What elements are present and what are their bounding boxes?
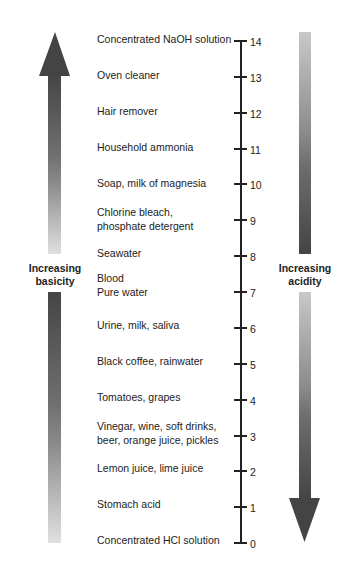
tick-11 xyxy=(234,148,247,150)
label-line: Increasing xyxy=(270,262,340,275)
tick-1 xyxy=(234,506,247,508)
tick-5 xyxy=(234,363,247,365)
item-oven-cleaner: Oven cleaner xyxy=(97,69,159,83)
tick-8 xyxy=(234,255,247,257)
item-household-ammonia: Household ammonia xyxy=(97,141,193,155)
tick-label-11: 11 xyxy=(250,144,261,156)
tick-label-6: 6 xyxy=(250,323,256,335)
label-line: basicity xyxy=(20,275,90,288)
tick-13 xyxy=(234,76,247,78)
tick-label-1: 1 xyxy=(250,502,256,514)
item-pure-water: Pure water xyxy=(97,286,148,300)
tick-label-3: 3 xyxy=(250,431,256,443)
tick-label-4: 4 xyxy=(250,395,256,407)
tick-6 xyxy=(234,327,247,329)
item-vinegar-line2: beer, orange juice, pickles xyxy=(97,434,218,448)
tick-2 xyxy=(234,470,247,472)
tick-label-0: 0 xyxy=(250,538,256,550)
increasing-basicity-label: Increasing basicity xyxy=(20,262,90,288)
tick-label-8: 8 xyxy=(250,251,256,263)
tick-0 xyxy=(234,542,247,544)
item-seawater: Seawater xyxy=(97,247,141,261)
increasing-acidity-label: Increasing acidity xyxy=(270,262,340,288)
tick-14 xyxy=(234,40,247,42)
tick-3 xyxy=(234,435,247,437)
item-chlorine-bleach-line2: phosphate detergent xyxy=(97,220,193,234)
tick-label-14: 14 xyxy=(250,36,262,48)
tick-label-2: 2 xyxy=(250,466,256,478)
item-lemon-juice: Lemon juice, lime juice xyxy=(97,462,203,476)
item-black-coffee: Black coffee, rainwater xyxy=(97,355,203,369)
item-vinegar-line1: Vinegar, wine, soft drinks, xyxy=(97,420,216,434)
tick-label-5: 5 xyxy=(250,359,256,371)
item-hair-remover: Hair remover xyxy=(97,105,158,119)
item-tomatoes: Tomatoes, grapes xyxy=(97,391,180,405)
label-line: acidity xyxy=(270,275,340,288)
item-soap: Soap, milk of magnesia xyxy=(97,177,206,191)
item-chlorine-bleach-line1: Chlorine bleach, xyxy=(97,206,173,220)
item-urine: Urine, milk, saliva xyxy=(97,319,179,333)
tick-label-12: 12 xyxy=(250,108,262,120)
tick-7 xyxy=(234,291,247,293)
item-naoh: Concentrated NaOH solution xyxy=(97,33,231,47)
tick-12 xyxy=(234,112,247,114)
tick-label-9: 9 xyxy=(250,215,256,227)
item-stomach-acid: Stomach acid xyxy=(97,498,161,512)
item-hcl: Concentrated HCl solution xyxy=(97,534,220,548)
tick-4 xyxy=(234,399,247,401)
tick-9 xyxy=(234,219,247,221)
label-line: Increasing xyxy=(20,262,90,275)
item-blood: Blood xyxy=(97,272,124,286)
tick-label-7: 7 xyxy=(250,287,256,299)
tick-10 xyxy=(234,183,247,185)
tick-label-13: 13 xyxy=(250,72,262,84)
tick-label-10: 10 xyxy=(250,179,262,191)
